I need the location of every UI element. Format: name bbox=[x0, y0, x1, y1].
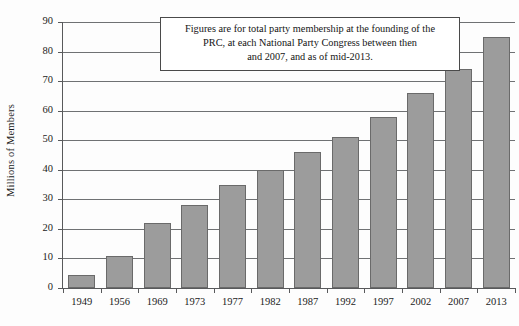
x-tick-label: 1969 bbox=[138, 296, 176, 307]
y-tick-label: 20 bbox=[21, 222, 53, 233]
x-tick-label: 1987 bbox=[289, 296, 327, 307]
annotation-line-3: and 2007, and as of mid-2013. bbox=[168, 50, 452, 64]
y-axis-title: Millions of Members bbox=[0, 0, 22, 300]
bar bbox=[445, 69, 472, 288]
x-tick-mark bbox=[63, 288, 64, 293]
x-tick-label: 1973 bbox=[176, 296, 214, 307]
annotation-line-1: Figures are for total party membership a… bbox=[168, 22, 452, 36]
bar bbox=[181, 205, 208, 288]
x-tick-mark bbox=[251, 288, 252, 293]
x-tick-label: 1977 bbox=[214, 296, 252, 307]
x-tick-mark bbox=[440, 288, 441, 293]
x-tick-label: 1992 bbox=[327, 296, 365, 307]
bar bbox=[257, 170, 284, 288]
y-tick-label: 70 bbox=[21, 74, 53, 85]
x-tick-mark bbox=[138, 288, 139, 293]
x-tick-label: 1982 bbox=[251, 296, 289, 307]
x-tick-label: 1956 bbox=[101, 296, 139, 307]
y-tick-label: 30 bbox=[21, 192, 53, 203]
bar bbox=[483, 37, 510, 288]
bar bbox=[68, 275, 95, 288]
bar bbox=[407, 93, 434, 288]
y-tick-label: 10 bbox=[21, 251, 53, 262]
x-tick-mark bbox=[327, 288, 328, 293]
x-tick-mark bbox=[364, 288, 365, 293]
x-tick-label: 2013 bbox=[477, 296, 515, 307]
x-tick-label: 1997 bbox=[364, 296, 402, 307]
x-tick-label: 2002 bbox=[402, 296, 440, 307]
bar bbox=[219, 185, 246, 288]
x-tick-mark bbox=[289, 288, 290, 293]
bar-chart: Millions of Members 0102030405060708090 … bbox=[0, 0, 519, 326]
x-tick-label: 2007 bbox=[440, 296, 478, 307]
x-tick-label: 1949 bbox=[63, 296, 101, 307]
x-tick-mark bbox=[402, 288, 403, 293]
x-tick-mark bbox=[101, 288, 102, 293]
annotation-line-2: PRC, at each National Party Congress bet… bbox=[168, 36, 452, 50]
y-tick-label: 60 bbox=[21, 104, 53, 115]
y-axis-title-label: Millions of Members bbox=[6, 103, 17, 196]
x-tick-mark bbox=[515, 288, 516, 293]
bar bbox=[144, 223, 171, 288]
annotation-note: Figures are for total party membership a… bbox=[160, 17, 460, 71]
x-tick-mark bbox=[214, 288, 215, 293]
x-tick-mark bbox=[477, 288, 478, 293]
bar bbox=[294, 152, 321, 288]
y-tick-label: 0 bbox=[21, 281, 53, 292]
y-tick-label: 90 bbox=[21, 15, 53, 26]
bar bbox=[332, 137, 359, 288]
bar bbox=[370, 117, 397, 288]
y-tick-label: 50 bbox=[21, 133, 53, 144]
y-tick-label: 80 bbox=[21, 45, 53, 56]
bar bbox=[106, 256, 133, 288]
x-tick-mark bbox=[176, 288, 177, 293]
y-tick-label: 40 bbox=[21, 163, 53, 174]
